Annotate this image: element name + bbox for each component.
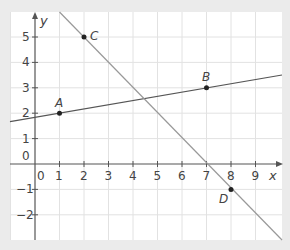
point-d-label: D xyxy=(219,192,228,206)
point-b-label: B xyxy=(202,70,210,84)
x-axis-label: x xyxy=(268,168,277,183)
x-tick-label: 1 xyxy=(55,169,63,183)
x-tick-label: 2 xyxy=(80,169,88,183)
point-a-label: A xyxy=(54,96,63,110)
x-tick-label: 7 xyxy=(203,169,211,183)
y-tick-label: 3 xyxy=(22,81,30,95)
y-tick-label: −1 xyxy=(16,182,34,196)
point-d xyxy=(229,187,234,192)
y-tick-label: 4 xyxy=(22,55,30,69)
x-tick-label: 6 xyxy=(178,169,186,183)
x-tick-label: 4 xyxy=(129,169,137,183)
x-tick-label: 3 xyxy=(105,169,113,183)
y-tick-label: −2 xyxy=(16,208,34,222)
x-tick-label: 8 xyxy=(227,169,235,183)
coordinate-graph: 0 1 2 3 4 5 6 7 8 9 x 5 4 3 2 1 0 −1 −2 … xyxy=(0,0,290,250)
plot-area xyxy=(10,12,282,240)
point-b xyxy=(204,85,209,90)
y-origin-label: 0 xyxy=(22,149,30,163)
x-tick-label: 9 xyxy=(252,169,260,183)
point-a xyxy=(57,111,62,116)
y-tick-label: 1 xyxy=(22,132,30,146)
point-c-label: C xyxy=(90,29,99,43)
x-tick-label: 5 xyxy=(154,169,162,183)
point-c xyxy=(82,35,87,40)
y-tick-label: 5 xyxy=(22,30,30,44)
x-origin-label: 0 xyxy=(37,169,45,183)
y-axis-label: y xyxy=(39,13,48,28)
